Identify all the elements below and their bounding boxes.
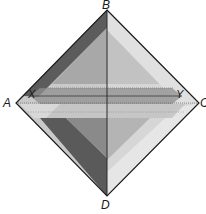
- point-label-Y: Y: [176, 89, 183, 100]
- square-diamond-diagram: [0, 0, 206, 214]
- vertex-label-C: C: [200, 97, 206, 109]
- vertex-label-A: A: [3, 97, 11, 109]
- point-label-X: X: [28, 89, 35, 100]
- vertex-label-B: B: [102, 0, 110, 11]
- vertex-label-D: D: [101, 199, 110, 211]
